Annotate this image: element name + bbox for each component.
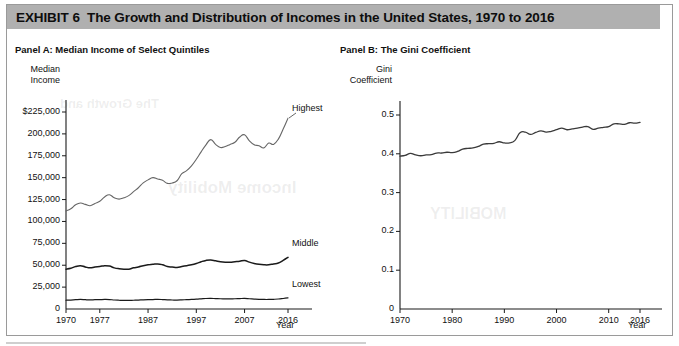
panel-a-x-axis-name: Year: [276, 320, 294, 331]
panel-b-plot: [330, 0, 679, 346]
series-label-highest: Highest: [292, 103, 323, 113]
panel-a-plot: [0, 0, 340, 346]
panel-b-x-axis-name: Year: [628, 320, 646, 331]
series-label-lowest: Lowest: [292, 279, 321, 289]
bottom-rule: [6, 342, 366, 344]
series-label-middle: Middle: [292, 238, 319, 248]
